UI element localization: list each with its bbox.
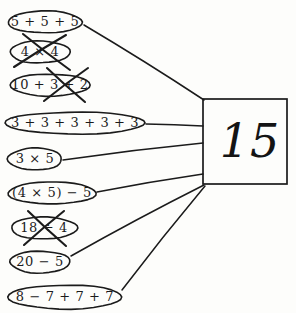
option-oval[interactable] xyxy=(5,112,145,134)
strike-mark xyxy=(23,34,70,70)
connector-line xyxy=(146,124,203,126)
strike-marks-group xyxy=(14,34,88,246)
connector-line xyxy=(63,143,203,160)
option-oval[interactable] xyxy=(7,148,61,170)
connector-line xyxy=(84,25,204,100)
connector-lines-group xyxy=(63,25,205,290)
option-oval[interactable] xyxy=(10,74,90,96)
option-oval[interactable] xyxy=(8,11,82,33)
connector-line xyxy=(71,185,204,256)
option-oval[interactable] xyxy=(10,251,70,273)
connector-line xyxy=(122,186,205,290)
worksheet-canvas: 5 + 5 + 54 × 410 + 3 + 23 + 3 + 3 + 3 + … xyxy=(0,0,296,313)
option-ovals-group xyxy=(5,11,145,310)
answer-value: 15 xyxy=(220,114,281,168)
option-oval[interactable] xyxy=(8,285,122,309)
option-oval[interactable] xyxy=(8,182,96,204)
option-oval[interactable] xyxy=(10,41,70,63)
connector-line xyxy=(97,174,203,192)
